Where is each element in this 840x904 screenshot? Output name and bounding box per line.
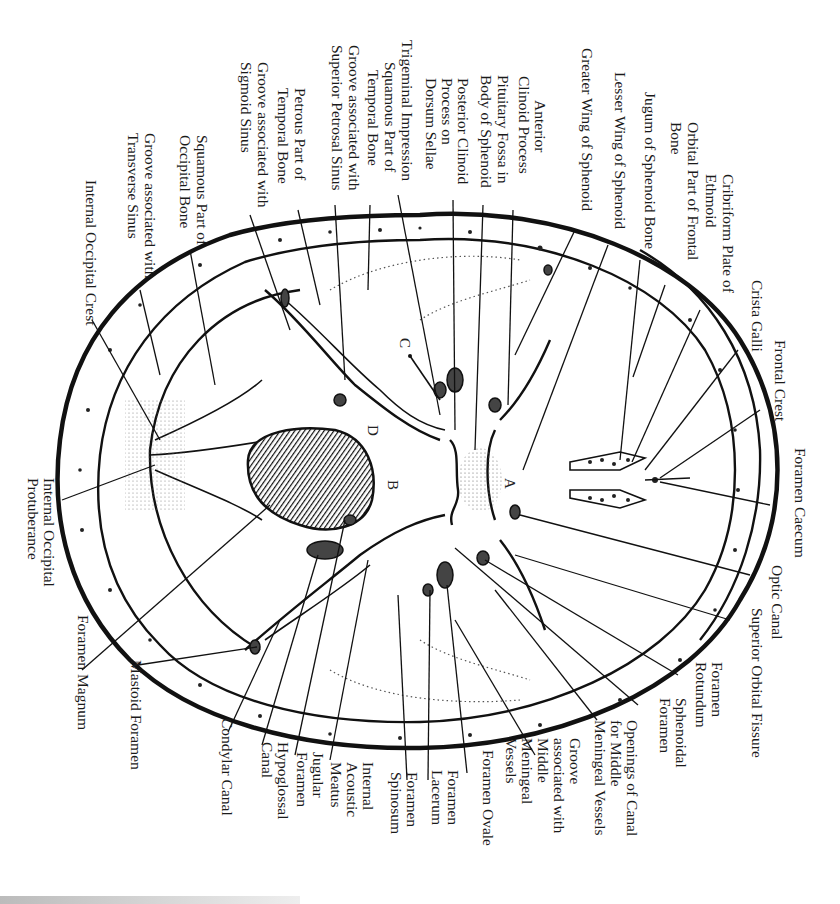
svg-text:Jugum of Sphenoid Bone: Jugum of Sphenoid Bone	[642, 92, 659, 249]
label-groove-middle-meningeal: Groove associated with Middle Meningeal …	[503, 738, 584, 833]
svg-text:Middle: Middle	[535, 738, 552, 783]
svg-text:Foramen: Foramen	[445, 770, 462, 825]
label-posterior-clinoid: Posterior Clinoid Process on Dorsum Sell…	[423, 78, 472, 185]
svg-text:Groove: Groove	[567, 738, 584, 785]
svg-text:Temporal Bone: Temporal Bone	[275, 88, 292, 184]
lesser-wing-lower	[500, 540, 545, 630]
svg-text:Optic Canal: Optic Canal	[769, 565, 786, 639]
skull-base-diagram: A B C D	[0, 0, 840, 904]
label-lesser-wing: Lesser Wing of Sphenoid	[612, 72, 629, 229]
foramen-rotundum-lower	[477, 551, 489, 565]
dorsum-sellae	[450, 440, 458, 525]
label-openings-canal-meningeal: Openings of Canal for Middle Meningeal V…	[592, 720, 641, 836]
label-crista-galli: Crista Galli	[749, 280, 766, 353]
svg-text:Squamous Part of: Squamous Part of	[194, 135, 211, 246]
svg-text:Jugular: Jugular	[310, 752, 327, 798]
svg-text:Greater Wing of Sphenoid: Greater Wing of Sphenoid	[579, 48, 596, 211]
label-squamous-temporal: Squamous Part of Temporal Bone	[365, 62, 399, 173]
svg-text:Sigmoid Sinus: Sigmoid Sinus	[238, 62, 255, 153]
svg-text:Superior Orbital Fissure: Superior Orbital Fissure	[749, 608, 766, 758]
svg-text:Foramen Caecum: Foramen Caecum	[792, 448, 809, 558]
pituitary-fossa-stipple	[458, 448, 502, 512]
orbital-dot-upper	[544, 265, 552, 275]
region-letter-d: D	[365, 425, 381, 436]
svg-text:Orbital Part of Frontal: Orbital Part of Frontal	[685, 122, 702, 260]
svg-text:Process on: Process on	[439, 78, 456, 145]
svg-text:Sphenoidal: Sphenoidal	[673, 698, 690, 768]
label-groove-sigmoid: Groove associated with Sigmoid Sinus	[238, 62, 272, 208]
label-foramen-caecum: Foramen Caecum	[792, 448, 809, 558]
greater-wing-lower-suture	[420, 640, 530, 680]
svg-text:Anterior: Anterior	[532, 100, 549, 153]
region-letter-a: A	[502, 478, 518, 489]
cribriform-plate-lower	[570, 490, 645, 508]
label-superior-orbital-fissure: Superior Orbital Fissure	[749, 608, 766, 758]
svg-text:Internal: Internal	[360, 762, 377, 810]
optic-canal-lower	[510, 505, 520, 519]
svg-text:Protuberance: Protuberance	[25, 478, 42, 560]
svg-text:Foramen: Foramen	[404, 772, 421, 827]
label-internal-occipital-crest: Internal Occipital Crest	[83, 180, 100, 326]
label-foramen-ovale: Foramen Ovale	[480, 750, 497, 846]
label-internal-acoustic-meatus: Internal Acoustic Meatus	[328, 762, 377, 817]
label-cribriform-plate: Cribriform Plate of Ethmoid	[703, 174, 737, 294]
middle-fossa-boundary	[330, 256, 520, 290]
label-trigeminal-impression: Trigeminal Impression	[399, 40, 416, 181]
svg-text:Posterior Clinoid: Posterior Clinoid	[455, 78, 472, 185]
svg-text:Acoustic: Acoustic	[344, 762, 361, 817]
label-condylar-canal: Condylar Canal	[219, 718, 236, 816]
label-sphenoidal-foramen: Sphenoidal Foramen	[657, 698, 690, 768]
svg-text:Dorsum Sellae: Dorsum Sellae	[423, 78, 440, 170]
region-letter-c: C	[397, 338, 413, 348]
foramen-spinosum-lower	[423, 584, 433, 596]
svg-text:Groove associated with: Groove associated with	[346, 45, 363, 191]
svg-text:Meningeal: Meningeal	[519, 738, 536, 804]
label-internal-occipital-protuberance: Internal Occipital Protuberance	[25, 478, 58, 587]
svg-text:Groove associated with: Groove associated with	[142, 133, 159, 279]
label-foramen-lacerum: Foramen Lacerum	[429, 770, 462, 825]
svg-text:Meatus: Meatus	[328, 762, 345, 808]
svg-text:Pituitary Fossa in: Pituitary Fossa in	[495, 75, 512, 184]
label-mastoid-foramen: Mastoid Foramen	[128, 660, 145, 770]
occipital-protuberance-stipple	[125, 400, 185, 510]
cribriform-foramina	[588, 458, 630, 502]
lesser-wing-upper	[500, 340, 550, 420]
svg-text:Foramen: Foramen	[709, 662, 726, 717]
outer-skull-contour-2	[640, 250, 760, 640]
svg-text:Lesser Wing of Sphenoid: Lesser Wing of Sphenoid	[612, 72, 629, 229]
label-foramen-magnum: Foramen Magnum	[75, 615, 92, 730]
svg-text:Lacerum: Lacerum	[429, 770, 446, 825]
label-frontal-crest: Frontal Crest	[772, 340, 789, 422]
petrous-ridge-lower-2	[265, 565, 370, 640]
svg-text:for Middle: for Middle	[608, 720, 625, 787]
svg-text:Canal: Canal	[259, 742, 276, 778]
sigmoid-groove-upper	[281, 289, 289, 307]
svg-text:Body of Sphenoid: Body of Sphenoid	[478, 75, 495, 188]
svg-text:Internal Occipital: Internal Occipital	[41, 478, 58, 587]
svg-text:Foramen: Foramen	[294, 752, 311, 807]
region-letter-b: B	[385, 480, 401, 490]
svg-text:Foramen Ovale: Foramen Ovale	[480, 750, 497, 846]
svg-text:Cribriform Plate of: Cribriform Plate of	[720, 174, 737, 294]
hypoglossal-canal-lower	[344, 515, 356, 525]
svg-text:Spinosum: Spinosum	[388, 772, 405, 834]
label-squamous-occipital: Squamous Part of Occipital Bone	[177, 135, 211, 246]
svg-text:Occipital Bone: Occipital Bone	[177, 135, 194, 229]
label-anterior-clinoid: Anterior Clinoid Process	[516, 76, 549, 174]
label-hypoglossal-canal: Hypoglossal Canal	[259, 742, 292, 820]
inner-skull-contour	[98, 239, 735, 722]
foramen-ovale-lower	[437, 562, 453, 588]
svg-text:Foramen Magnum: Foramen Magnum	[75, 615, 92, 730]
middle-fossa-boundary-lower	[330, 670, 520, 702]
svg-text:Vessels: Vessels	[503, 738, 520, 784]
svg-text:Squamous Part of: Squamous Part of	[382, 62, 399, 173]
label-groove-superior-petrosal: Groove associated with Superior Petrosal…	[329, 45, 363, 191]
label-groove-transverse: Groove associated with Transverse Sinus	[125, 133, 159, 279]
svg-text:Transverse Sinus: Transverse Sinus	[125, 133, 142, 239]
jugular-foramen-upper	[334, 394, 346, 406]
svg-text:Openings of Canal: Openings of Canal	[624, 720, 641, 836]
svg-text:Groove associated with: Groove associated with	[255, 62, 272, 208]
label-foramen-spinosum: Foramen Spinosum	[388, 772, 421, 834]
svg-text:Clinoid Process: Clinoid Process	[516, 76, 533, 174]
svg-text:Trigeminal Impression: Trigeminal Impression	[399, 40, 416, 181]
